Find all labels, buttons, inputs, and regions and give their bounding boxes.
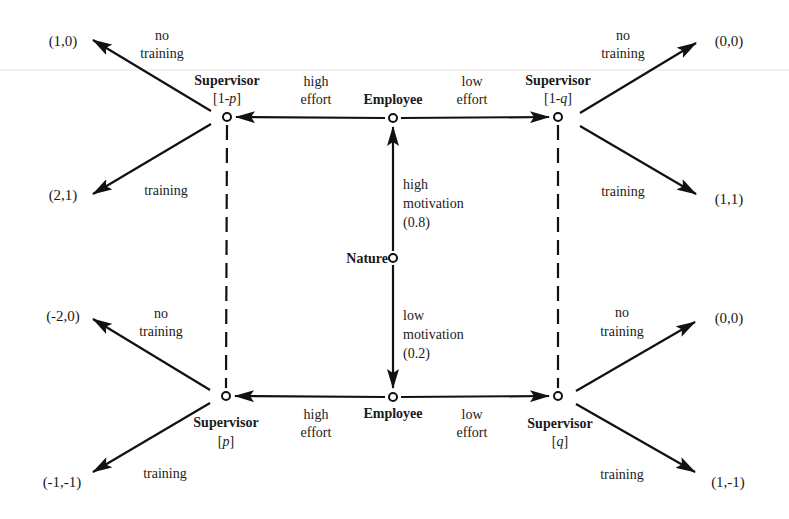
label-supervisor-tr: Supervisor <box>525 73 590 88</box>
label-supervisor-bl: Supervisor <box>193 415 258 430</box>
label-tr-no-training: training <box>601 46 645 61</box>
label-tr-no: no <box>616 28 630 43</box>
label-high-motivation-prob: (0.8) <box>403 215 430 231</box>
payoff-br-training: (1,-1) <box>711 474 745 491</box>
label-bl-no: no <box>154 306 168 321</box>
payoff-tl-no-training: (1,0) <box>49 33 78 50</box>
payoff-br-no-training: (0,0) <box>715 310 744 327</box>
edge-top-low-effort <box>401 117 549 118</box>
info-set-left <box>226 125 227 388</box>
label-br-training: training <box>600 467 644 482</box>
label-bl-no-training: training <box>139 324 183 339</box>
edge-br-training <box>576 404 695 472</box>
node-supervisor-tl <box>223 113 231 121</box>
label-employee-low: Employee <box>363 406 422 421</box>
node-nature <box>389 254 397 262</box>
label-employee-high: Employee <box>363 92 422 107</box>
label-top-high-effort: high <box>304 74 329 89</box>
node-employee-high <box>389 114 397 122</box>
node-supervisor-tr <box>554 113 562 121</box>
label-high-motivation-2: motivation <box>403 196 464 211</box>
belief-supervisor-br: [q] <box>552 434 568 449</box>
label-top-high-effort-2: effort <box>301 92 332 107</box>
label-bottom-low-effort: low <box>462 407 484 422</box>
payoff-bl-training: (-1,-1) <box>43 474 82 491</box>
label-supervisor-br: Supervisor <box>527 416 592 431</box>
belief-supervisor-bl: [p] <box>218 434 234 449</box>
label-low-motivation-2: motivation <box>403 327 464 342</box>
belief-supervisor-tr: [1-q] <box>544 91 572 106</box>
label-bottom-low-effort-2: effort <box>457 425 488 440</box>
edge-bottom-high-effort <box>235 396 385 397</box>
label-low-motivation-prob: (0.2) <box>403 346 430 362</box>
node-employee-low <box>389 393 397 401</box>
belief-supervisor-tl: [1-p] <box>213 91 241 106</box>
label-br-no: no <box>615 305 629 320</box>
label-top-low-effort: low <box>462 74 484 89</box>
label-supervisor-tl: Supervisor <box>194 73 259 88</box>
label-top-low-effort-2: effort <box>457 92 488 107</box>
label-br-no-training: training <box>600 324 644 339</box>
payoff-tr-training: (1,1) <box>715 191 744 208</box>
label-bl-training: training <box>143 466 187 481</box>
label-tl-no-training: training <box>140 46 184 61</box>
label-nature: Nature <box>346 251 388 266</box>
edge-bottom-low-effort <box>401 396 549 397</box>
game-tree-diagram: Nature Employee Employee Supervisor [1-p… <box>0 0 789 519</box>
node-supervisor-bl <box>222 392 230 400</box>
label-bottom-high-effort-2: effort <box>301 425 332 440</box>
payoff-tl-training: (2,1) <box>49 187 78 204</box>
payoff-bl-no-training: (-2,0) <box>46 308 80 325</box>
label-high-motivation: high <box>403 177 428 192</box>
label-bottom-high-effort: high <box>304 407 329 422</box>
edge-top-high-effort <box>236 117 385 118</box>
payoff-tr-no-training: (0,0) <box>715 33 744 50</box>
label-tl-no: no <box>155 28 169 43</box>
edge-bl-training <box>93 403 210 472</box>
label-tl-training: training <box>144 183 188 198</box>
label-low-motivation: low <box>403 308 425 323</box>
label-tr-training: training <box>601 184 645 199</box>
node-supervisor-br <box>554 392 562 400</box>
